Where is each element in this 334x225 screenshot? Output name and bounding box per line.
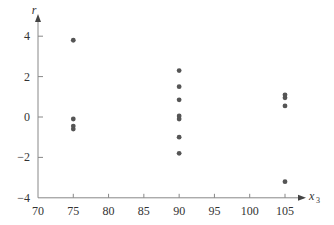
scatter-chart: −4−2024707580859095100105 r x 3 xyxy=(0,0,334,225)
x-tick-label: 85 xyxy=(138,204,150,218)
x-axis-label: x xyxy=(308,189,315,203)
x-tick-label: 90 xyxy=(173,204,185,218)
data-point xyxy=(71,38,76,43)
data-point xyxy=(177,68,182,73)
data-point xyxy=(177,135,182,140)
x-axis-arrow-icon xyxy=(298,195,306,201)
data-point xyxy=(71,127,76,132)
x-axis-label-subscript: 3 xyxy=(316,196,320,205)
x-tick-label: 95 xyxy=(208,204,220,218)
x-tick-label: 70 xyxy=(32,204,44,218)
data-point xyxy=(177,84,182,89)
data-point xyxy=(283,103,288,108)
y-axis-label: r xyxy=(32,3,37,17)
ticks: −4−2024707580859095100105 xyxy=(17,29,294,218)
y-tick-label: 2 xyxy=(24,70,30,84)
y-tick-label: 0 xyxy=(24,110,30,124)
x-tick-label: 105 xyxy=(276,204,294,218)
data-points xyxy=(71,38,288,184)
data-point xyxy=(283,95,288,100)
data-point xyxy=(177,97,182,102)
axes xyxy=(35,14,306,201)
y-tick-label: −2 xyxy=(17,150,30,164)
axis-labels: r x 3 xyxy=(32,3,320,205)
data-point xyxy=(283,179,288,184)
data-point xyxy=(71,117,76,122)
y-tick-label: −4 xyxy=(17,191,30,205)
x-tick-label: 80 xyxy=(103,204,115,218)
x-tick-label: 100 xyxy=(241,204,259,218)
data-point xyxy=(177,117,182,122)
data-point xyxy=(177,151,182,156)
x-tick-label: 75 xyxy=(67,204,79,218)
y-tick-label: 4 xyxy=(24,29,30,43)
